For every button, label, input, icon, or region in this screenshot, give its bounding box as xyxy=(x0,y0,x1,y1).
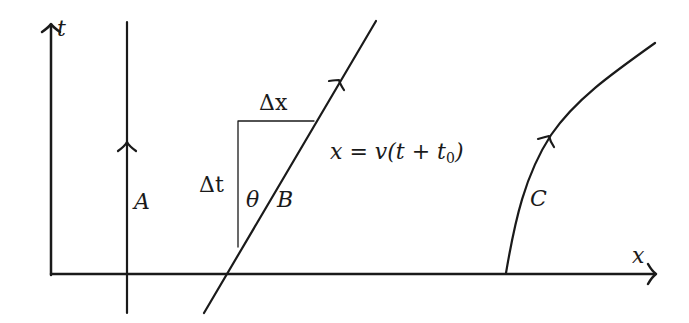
worldline-a-label: A xyxy=(134,191,150,213)
worldline-b xyxy=(204,21,376,313)
theta-label: θ xyxy=(246,189,259,211)
equation-subscript: 0 xyxy=(446,150,455,166)
equation-main: x = v(t + t xyxy=(330,139,446,164)
delta-t-text: Δt xyxy=(199,172,224,197)
worldline-c xyxy=(506,43,655,273)
delta-x-text: Δx xyxy=(259,90,287,115)
delta-t-label: Δt xyxy=(199,174,224,196)
equation-close: ) xyxy=(455,139,464,164)
x-axis-label: x xyxy=(632,245,644,267)
worldline-b-equation: x = v(t + t0) xyxy=(330,141,463,165)
t-axis-label: t xyxy=(57,18,66,40)
worldline-b-label: B xyxy=(277,189,293,211)
worldline-c-label: C xyxy=(530,188,547,210)
delta-x-label: Δx xyxy=(259,92,287,114)
spacetime-diagram: t x A B C Δx Δt θ x = v(t + t0) xyxy=(0,0,689,323)
slope-triangle xyxy=(238,121,314,247)
